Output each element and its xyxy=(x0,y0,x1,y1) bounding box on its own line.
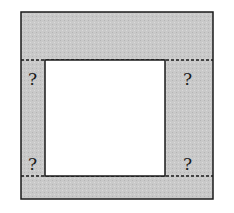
label-top-left: ? xyxy=(28,69,37,89)
label-bottom-left: ? xyxy=(28,154,37,174)
inner-white-square xyxy=(45,60,165,176)
label-top-right: ? xyxy=(183,69,192,89)
frame-diagram: ? ? ? ? xyxy=(0,0,234,213)
label-bottom-right: ? xyxy=(183,154,192,174)
